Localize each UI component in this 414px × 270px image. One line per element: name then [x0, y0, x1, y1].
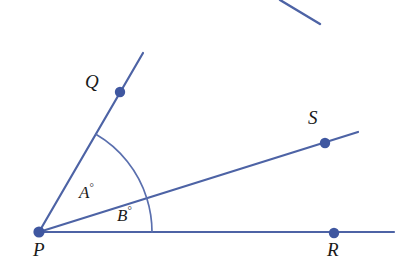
point-label-q: Q: [85, 72, 99, 91]
angle-a-arc: [96, 134, 147, 198]
stray-line-fragment: [280, 0, 320, 24]
degree-symbol-icon: °: [89, 181, 93, 193]
point-p-dot: [33, 226, 44, 237]
degree-symbol-icon: °: [127, 204, 131, 216]
angle-label-a-letter: A: [79, 183, 89, 202]
geometry-canvas: [0, 0, 414, 270]
geometry-figure: P Q S R A° B°: [0, 0, 414, 270]
point-q-dot: [115, 87, 125, 97]
point-label-r: R: [327, 240, 339, 259]
angle-label-a: A°: [79, 182, 94, 201]
point-r-dot: [329, 228, 339, 238]
point-s-dot: [320, 138, 330, 148]
point-label-s: S: [308, 108, 318, 127]
angle-label-b-letter: B: [117, 206, 127, 225]
angle-label-b: B°: [117, 205, 132, 224]
angle-b-arc: [147, 198, 152, 232]
point-label-p: P: [33, 240, 45, 259]
